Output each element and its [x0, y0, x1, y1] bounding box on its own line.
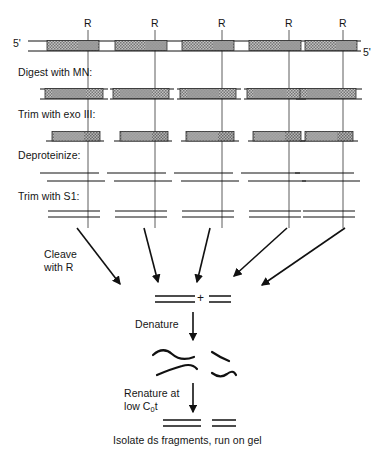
restriction-site-label-1: R	[84, 17, 92, 29]
renatured-duplex-products	[163, 420, 236, 426]
row-after-mn-digest	[40, 89, 362, 100]
renature-label-line2: low C0t	[124, 400, 158, 416]
five-prime-left-label: 5'	[13, 37, 21, 49]
cleaved-duplex-products	[155, 296, 231, 302]
restriction-site-guides	[88, 30, 343, 228]
five-prime-right-label: 5'	[363, 46, 371, 58]
plus-sign: +	[197, 292, 204, 304]
cleave-arrow-5	[262, 228, 345, 285]
restriction-site-label-4: R	[285, 17, 293, 29]
row-after-exo3	[46, 132, 358, 142]
cleave-arrows	[77, 228, 345, 285]
denature-label: Denature	[135, 318, 179, 330]
restriction-site-label-3: R	[218, 17, 226, 29]
restriction-site-label-2: R	[151, 17, 159, 29]
renature-label-line1: Renature at	[124, 387, 179, 399]
row-after-s1	[48, 211, 355, 217]
cleave-arrow-2	[144, 228, 158, 282]
cleave-with-r-label-line1: Cleave	[44, 248, 77, 260]
ss-strand-2	[157, 365, 197, 375]
step-label-digest-mn: Digest with MN:	[18, 66, 92, 78]
figure-caption: Isolate ds fragments, run on gel	[113, 434, 262, 446]
cleave-with-r-label-line2: with R	[44, 261, 73, 273]
renature-label-line2-pre: low C	[124, 400, 151, 412]
row-native-chromatin	[28, 41, 361, 52]
cleave-arrow-3	[197, 228, 210, 282]
renature-label-line2-post: t	[155, 400, 158, 412]
step-label-trim-exo3: Trim with exo III:	[18, 108, 96, 120]
cleave-arrow-1	[77, 228, 120, 284]
cleave-arrow-4	[234, 228, 287, 276]
restriction-site-label-5: R	[339, 17, 347, 29]
step-label-deproteinize: Deproteinize:	[18, 149, 81, 161]
step-label-trim-s1: Trim with S1:	[18, 190, 80, 202]
denatured-single-strands	[153, 350, 236, 376]
ss-strand-4	[212, 372, 236, 377]
ss-strand-3	[212, 352, 229, 361]
ss-strand-1	[153, 350, 194, 359]
